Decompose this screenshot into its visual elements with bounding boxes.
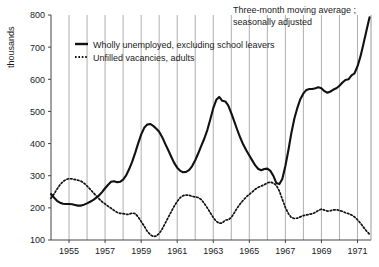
x-tick-label-1959: 1959 [131, 246, 151, 256]
y-tick-label-700: 700 [30, 43, 45, 53]
x-tick-label-1971: 1971 [347, 246, 367, 256]
x-tick-label-1955: 1955 [59, 246, 79, 256]
chart-container: 100200300400500600700800 195519571959196… [0, 0, 379, 267]
y-tick-label-800: 800 [30, 10, 45, 20]
x-tick-label-1969: 1969 [311, 246, 331, 256]
y-axis-title-label: thousands [6, 26, 16, 68]
x-tick-label-1965: 1965 [239, 246, 259, 256]
x-tick-label-1967: 1967 [275, 246, 295, 256]
y-tick-label-500: 500 [30, 107, 45, 117]
x-tick-label-1957: 1957 [95, 246, 115, 256]
legend-label-unemployed: Wholly unemployed, excluding school leav… [93, 40, 275, 50]
legend-label-vacancies: Unfilled vacancies, adults [93, 53, 195, 63]
x-axis-ticks: 195519571959196119631965196719691971 [59, 240, 367, 256]
annotation-line-2: seasonally adjusted [233, 17, 312, 27]
y-tick-label-400: 400 [30, 139, 45, 149]
y-tick-label-100: 100 [30, 235, 45, 245]
annotation-line-1: Three-month moving average ; [233, 5, 356, 15]
y-tick-label-200: 200 [30, 203, 45, 213]
x-tick-label-1961: 1961 [167, 246, 187, 256]
y-tick-label-300: 300 [30, 171, 45, 181]
y-tick-label-600: 600 [30, 75, 45, 85]
x-tick-label-1963: 1963 [203, 246, 223, 256]
y-axis-title: thousands [6, 26, 16, 68]
line-chart: 100200300400500600700800 195519571959196… [0, 0, 379, 267]
